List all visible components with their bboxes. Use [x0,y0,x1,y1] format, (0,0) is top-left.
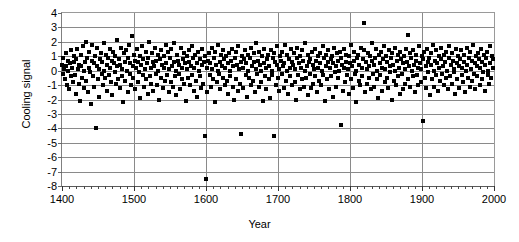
data-point [378,73,382,77]
data-point [304,76,308,80]
data-point [194,79,198,83]
data-point [169,47,173,51]
data-point [200,47,204,51]
data-point [75,47,79,51]
data-point [419,80,423,84]
data-point [341,89,345,93]
data-point [462,53,466,57]
data-point [77,82,81,86]
data-point [365,82,369,86]
data-point [360,66,364,70]
data-point [254,41,258,45]
x-minor-tick [256,186,257,189]
data-point [101,83,105,87]
x-minor-tick [451,186,452,189]
data-point [161,86,165,90]
data-point [205,90,209,94]
data-point [358,83,362,87]
data-point [337,69,341,73]
data-point [225,79,229,83]
data-point [390,98,394,102]
data-point [464,69,468,73]
data-point [178,87,182,91]
data-point [428,93,432,97]
y-tick-mark [58,114,62,115]
data-point [354,69,358,73]
data-point [265,57,269,61]
x-minor-tick [300,186,301,189]
data-point [430,77,434,81]
data-point [213,50,217,54]
data-point [93,54,97,58]
data-point [182,82,186,86]
data-point [418,61,422,65]
data-point [391,63,395,67]
x-minor-tick [408,186,409,189]
data-point [478,83,482,87]
data-point [171,85,175,89]
data-point [384,54,388,58]
data-point [156,69,160,73]
data-point [213,100,217,104]
data-point [253,90,257,94]
data-point [226,92,230,96]
data-point [115,38,119,42]
data-point [308,57,312,61]
data-point [295,46,299,50]
data-point [457,86,461,90]
x-minor-tick [436,186,437,189]
y-tick-label: -5 [47,137,57,149]
data-point [447,44,451,48]
data-point [431,43,435,47]
data-point [241,86,245,90]
data-point [262,47,266,51]
data-point [483,63,487,67]
data-point [398,92,402,96]
data-point [423,76,427,80]
x-minor-tick [213,186,214,189]
data-point [81,44,85,48]
data-point [439,46,443,50]
data-point [389,56,393,60]
data-point [102,41,106,45]
data-point [302,85,306,89]
data-point [105,89,109,93]
data-point [267,77,271,81]
x-minor-tick [444,186,445,189]
data-point [67,87,71,91]
x-tick-label: 1600 [194,193,218,205]
data-point [121,100,125,104]
data-point [426,70,430,74]
data-point [406,33,410,37]
data-point [270,73,274,77]
data-point [74,57,78,61]
y-tick-label: -2 [47,94,57,106]
data-point [300,48,304,52]
x-tick-label: 1800 [338,193,362,205]
x-minor-tick [192,186,193,189]
data-point [410,69,414,73]
data-point [301,59,305,63]
data-point [109,80,113,84]
x-minor-tick [357,186,358,189]
data-point [203,134,207,138]
data-point [70,66,74,70]
x-minor-tick [480,186,481,189]
x-minor-tick [400,186,401,189]
data-point [303,41,307,45]
data-point [450,51,454,55]
data-point [276,76,280,80]
data-point [140,44,144,48]
vertical-gridline [278,13,279,186]
data-point [266,53,270,57]
data-point [311,82,315,86]
y-tick-label: -8 [47,180,57,192]
data-point [239,132,243,136]
data-point [84,40,88,44]
data-point [429,63,433,67]
data-point [212,56,216,60]
data-point [444,50,448,54]
data-point [375,77,379,81]
x-minor-tick [415,186,416,189]
x-major-tick [62,186,63,191]
